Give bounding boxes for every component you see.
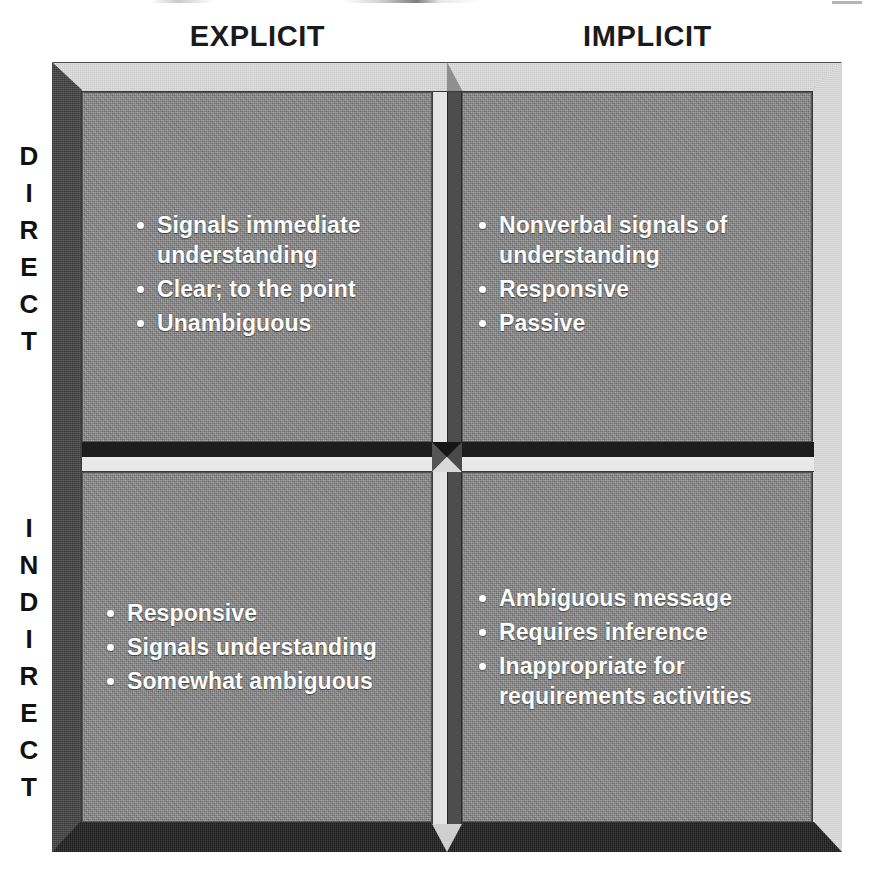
bullet-dot-icon	[137, 286, 144, 293]
bullet-item: Signals understanding	[105, 632, 429, 662]
bullet-label: Inappropriate for requirements activitie…	[499, 653, 752, 709]
bullet-label: Requires inference	[499, 619, 708, 645]
column-header-explicit: EXPLICIT	[115, 20, 400, 53]
bullet-label: Somewhat ambiguous	[127, 668, 373, 694]
bullet-list: ResponsiveSignals understandingSomewhat …	[105, 598, 429, 696]
row-header-letter: D	[8, 584, 50, 621]
row-header-letter: D	[8, 138, 50, 175]
row-header-letter: N	[8, 547, 50, 584]
row-header-indirect: INDIRECT	[8, 510, 50, 806]
bullet-item: Signals immediate understanding	[135, 210, 425, 270]
bullet-list: Ambiguous messageRequires inferenceInapp…	[477, 583, 809, 711]
bullet-dot-icon	[107, 644, 114, 651]
bullet-item: Responsive	[477, 274, 805, 304]
row-header-letter: I	[8, 621, 50, 658]
bevel-top-edge	[52, 62, 842, 93]
quadrant-indirect-explicit[interactable]: ResponsiveSignals understandingSomewhat …	[82, 472, 432, 822]
bullet-dot-icon	[479, 663, 486, 670]
row-header-letter: I	[8, 175, 50, 212]
row-header-direct: DIRECT	[8, 138, 50, 360]
bevel-left-edge	[52, 62, 82, 852]
bullet-label: Passive	[499, 310, 585, 336]
bullet-label: Responsive	[499, 276, 629, 302]
bullet-item: Clear; to the point	[135, 274, 425, 304]
bullet-item: Somewhat ambiguous	[105, 666, 429, 696]
bullet-dot-icon	[479, 320, 486, 327]
column-header-implicit: IMPLICIT	[505, 20, 790, 53]
row-header-letter: E	[8, 249, 50, 286]
row-header-letter: C	[8, 732, 50, 769]
bullet-label: Signals understanding	[127, 634, 377, 660]
bullet-label: Clear; to the point	[157, 276, 356, 302]
bullet-dot-icon	[479, 595, 486, 602]
quadrant-direct-explicit[interactable]: Signals immediate understandingClear; to…	[82, 92, 432, 442]
row-header-letter: C	[8, 286, 50, 323]
bevel-bottom-edge	[52, 822, 842, 853]
bullet-dot-icon	[479, 286, 486, 293]
bullet-list: Nonverbal signals of understandingRespon…	[477, 210, 805, 338]
bullet-item: Requires inference	[477, 617, 809, 647]
scan-artifact-top-right	[832, 1, 862, 4]
row-header-letter: I	[8, 510, 50, 547]
bullet-dot-icon	[479, 222, 486, 229]
matrix-face: Signals immediate understandingClear; to…	[81, 91, 813, 823]
scan-artifact-top	[150, 0, 610, 3]
row-header-letter: T	[8, 769, 50, 806]
bullet-dot-icon	[107, 610, 114, 617]
bullet-dot-icon	[479, 629, 486, 636]
matrix-diagram: Signals immediate understandingClear; to…	[52, 62, 842, 852]
bullet-dot-icon	[107, 678, 114, 685]
bullet-item: Inappropriate for requirements activitie…	[477, 651, 809, 711]
bullet-label: Responsive	[127, 600, 257, 626]
bevel-right-edge	[812, 62, 843, 852]
bullet-label: Nonverbal signals of understanding	[499, 212, 727, 268]
bullet-item: Ambiguous message	[477, 583, 809, 613]
row-header-letter: R	[8, 658, 50, 695]
bullet-dot-icon	[137, 222, 144, 229]
bullet-dot-icon	[137, 320, 144, 327]
bullet-item: Passive	[477, 308, 805, 338]
quadrant-direct-implicit[interactable]: Nonverbal signals of understandingRespon…	[462, 92, 812, 442]
bullet-item: Responsive	[105, 598, 429, 628]
bullet-label: Ambiguous message	[499, 585, 732, 611]
bullet-label: Signals immediate understanding	[157, 212, 361, 268]
row-header-letter: E	[8, 695, 50, 732]
bullet-list: Signals immediate understandingClear; to…	[135, 210, 425, 338]
row-header-letter: T	[8, 323, 50, 360]
bullet-label: Unambiguous	[157, 310, 311, 336]
bullet-item: Unambiguous	[135, 308, 425, 338]
quadrant-indirect-implicit[interactable]: Ambiguous messageRequires inferenceInapp…	[462, 472, 812, 822]
row-header-letter: R	[8, 212, 50, 249]
bullet-item: Nonverbal signals of understanding	[477, 210, 805, 270]
